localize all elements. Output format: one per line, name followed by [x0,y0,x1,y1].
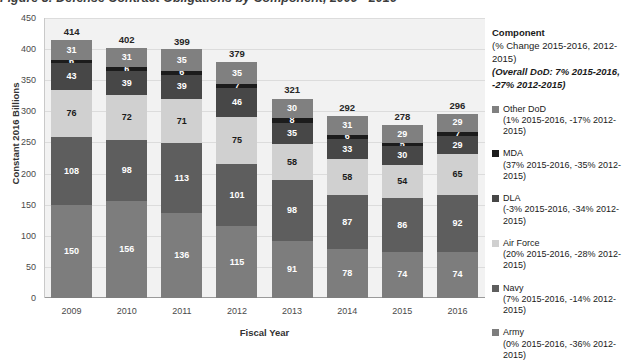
y-axis-label: Constant 2016 Billions [10,59,21,209]
bar-segment[interactable]: 33 [327,139,368,160]
bar-column[interactable]: 74865430529 [382,125,423,298]
figure-container: Figure 3: Defense Contract Obligations b… [0,0,638,360]
bar-segment[interactable]: 29 [382,125,423,143]
bar-column[interactable]: 78875833631 [327,116,368,298]
legend-item-note: (37% 2015-2016, -35% 2012-2015) [503,160,638,183]
legend-item-label: Other DoD [503,104,546,115]
legend-item-note: (7% 2015-2016, -14% 2012-2015) [503,294,638,317]
bar-segment[interactable]: 91 [272,241,313,298]
bar-segment[interactable]: 78 [327,249,368,298]
legend-swatch-icon [492,329,499,336]
legend-item-row: Navy [492,283,638,294]
bar-segment[interactable]: 87 [327,195,368,249]
bar-segment[interactable]: 35 [161,49,202,71]
x-tick-label: 2016 [437,306,478,316]
x-tick-label: 2015 [382,306,423,316]
bar-column[interactable]: 1361137139635 [161,49,202,298]
bar-segment[interactable]: 101 [216,164,257,227]
bar-segment[interactable]: 74 [382,252,423,298]
legend-swatch-icon [492,285,499,292]
bar-segment[interactable]: 150 [51,205,92,298]
legend-item[interactable]: Air Force(20% 2015-2016, -28% 2012-2015) [492,238,638,272]
bar-segment[interactable]: 30 [272,99,313,118]
x-tick-label: 2009 [51,306,92,316]
bar-segment[interactable]: 39 [161,75,202,99]
legend-item-note: (0% 2015-2016, -36% 2012-2015) [503,339,638,360]
x-tick-label: 2014 [327,306,368,316]
bar-segment[interactable]: 58 [272,144,313,180]
legend-swatch-icon [492,240,499,247]
legend-item-label: DLA [503,193,521,204]
bar-segment[interactable]: 29 [437,114,478,132]
bar-total-label: 402 [106,34,147,45]
legend-item[interactable]: Other DoD(1% 2015-2016, -17% 2012-2015) [492,104,638,138]
legend-item-label: Navy [503,283,524,294]
x-tick-label: 2011 [161,306,202,316]
bar-segment[interactable]: 72 [106,95,147,140]
x-axis-label: Fiscal Year [44,327,485,338]
bar-segment[interactable]: 92 [437,195,478,252]
y-tick-label: 0 [2,293,36,303]
legend-item-label: MDA [503,148,523,159]
legend-swatch-icon [492,195,499,202]
bar-segment[interactable]: 71 [161,99,202,143]
bar-segment[interactable]: 76 [51,90,92,137]
legend-items: Other DoD(1% 2015-2016, -17% 2012-2015)M… [492,104,638,360]
y-tick-label: 400 [2,44,36,54]
bar-segment[interactable]: 54 [382,165,423,199]
legend-item-label: Army [503,327,524,338]
x-tick-label: 2012 [216,306,257,316]
y-tick-label: 50 [2,262,36,272]
bar-segment[interactable]: 29 [437,136,478,154]
bar-total-label: 292 [327,102,368,113]
bar-segment[interactable]: 98 [272,180,313,241]
y-tick-label: 100 [2,231,36,241]
x-tick-label: 2013 [272,306,313,316]
bar-segment[interactable]: 74 [437,252,478,298]
bar-segment[interactable]: 86 [382,198,423,252]
legend-swatch-icon [492,106,499,113]
legend-overall-note: (Overall DoD: 7% 2015-2016, -27% 2012-20… [492,65,638,91]
legend: Component (% Change 2015-2016, 2012-2015… [492,26,638,360]
legend-item-note: (20% 2015-2016, -28% 2012-2015) [503,249,638,272]
bar-segment[interactable]: 98 [106,140,147,201]
bar-segment[interactable]: 30 [382,146,423,165]
bar-segment[interactable]: 108 [51,137,92,204]
legend-item-row: Other DoD [492,104,638,115]
legend-item-note: (1% 2015-2016, -17% 2012-2015) [503,115,638,138]
bar-column[interactable]: 156987239631 [106,48,147,298]
bar-segment[interactable]: 46 [216,88,257,117]
bar-total-label: 379 [216,48,257,59]
y-tick-label: 450 [2,13,36,23]
legend-subheader: (% Change 2015-2016, 2012-2015) [492,39,638,65]
bar-segment[interactable]: 58 [327,159,368,195]
bar-segment[interactable]: 31 [106,48,147,67]
bar-segment[interactable]: 43 [51,63,92,90]
bar-segment[interactable]: 39 [106,71,147,95]
bar-segment[interactable]: 31 [327,116,368,135]
bar-column[interactable]: 1151017546735 [216,62,257,298]
bar-segment[interactable]: 35 [216,62,257,84]
legend-item-row: Air Force [492,238,638,249]
bar-column[interactable]: 1501087643631 [51,40,92,298]
legend-item[interactable]: Navy(7% 2015-2016, -14% 2012-2015) [492,283,638,317]
bar-segment[interactable]: 65 [437,154,478,194]
bar-segment[interactable]: 136 [161,213,202,298]
bar-segment[interactable]: 31 [51,40,92,59]
legend-item-row: Army [492,327,638,338]
plot-area: 1501087643631414156987239631402136113713… [44,18,485,320]
bar-column[interactable]: 74926529729 [437,114,478,298]
bar-column[interactable]: 91985835830 [272,99,313,298]
legend-item[interactable]: Army(0% 2015-2016, -36% 2012-2015) [492,327,638,360]
legend-item[interactable]: DLA(-3% 2015-2016, -34% 2012-2015) [492,193,638,227]
y-axis-ticks: 050100150200250300350400450 [2,18,40,298]
bar-segment[interactable]: 115 [216,226,257,298]
bar-segment[interactable]: 75 [216,117,257,164]
bar-total-label: 414 [51,26,92,37]
bar-segment[interactable]: 35 [272,123,313,145]
bar-segment[interactable]: 156 [106,201,147,298]
bar-segment[interactable]: 113 [161,143,202,213]
x-tick-label: 2010 [106,306,147,316]
legend-item[interactable]: MDA(37% 2015-2016, -35% 2012-2015) [492,148,638,182]
bar-total-label: 278 [382,111,423,122]
